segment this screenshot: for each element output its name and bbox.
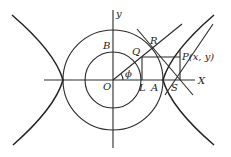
label-R: R xyxy=(149,35,158,46)
label-Q: Q xyxy=(132,46,140,57)
label-y-axis: y xyxy=(115,8,122,19)
label-A: A xyxy=(150,82,158,93)
label-phi: ϕ xyxy=(125,68,132,79)
label-origin: O xyxy=(103,81,111,92)
label-x-axis: X xyxy=(197,75,206,86)
hyperbola-construction-diagram: y X O B Q R P(x, y) L A S ϕ xyxy=(0,0,231,157)
label-S: S xyxy=(171,82,178,93)
label-B: B xyxy=(102,40,110,51)
radius-line-OR xyxy=(113,24,182,80)
angle-arc-phi xyxy=(121,74,123,80)
label-L: L xyxy=(138,82,146,93)
label-P: P(x, y) xyxy=(181,51,214,62)
